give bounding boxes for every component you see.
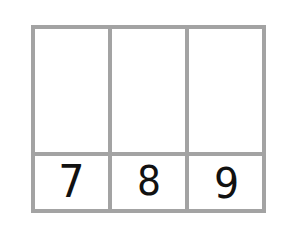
worksheet-canvas: 7 8 9 bbox=[0, 0, 288, 233]
grid-cell-bottom-2[interactable]: 8 bbox=[112, 156, 189, 209]
digit-seven: 7 bbox=[58, 159, 84, 204]
grid-cell-bottom-3[interactable]: 9 bbox=[189, 156, 262, 209]
grid-row-bottom: 7 8 9 bbox=[35, 156, 262, 209]
grid-cell-top-1[interactable] bbox=[35, 29, 112, 152]
digit-eight: 8 bbox=[137, 161, 161, 202]
number-grid: 7 8 9 bbox=[31, 25, 266, 213]
grid-row-top bbox=[35, 29, 262, 156]
grid-cell-top-3[interactable] bbox=[189, 29, 262, 152]
grid-cell-top-2[interactable] bbox=[112, 29, 189, 152]
grid-cell-bottom-1[interactable]: 7 bbox=[35, 156, 112, 209]
digit-nine: 9 bbox=[214, 162, 239, 205]
